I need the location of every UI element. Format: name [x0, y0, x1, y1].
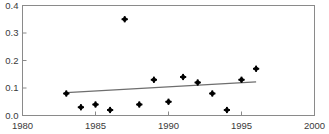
scatter-plot: 0.00.10.20.30.4 19801985199019952000 — [0, 0, 329, 134]
y-axis-tick-labels: 0.00.10.20.30.4 — [5, 0, 18, 121]
y-tick-label: 0.4 — [5, 0, 18, 11]
data-point — [253, 66, 259, 72]
data-point — [63, 90, 69, 96]
data-points — [63, 16, 259, 113]
data-point — [136, 101, 142, 107]
data-point — [92, 101, 98, 107]
x-tick-label: 1980 — [12, 120, 33, 131]
data-point-crossbar-v — [153, 77, 155, 83]
data-point-crossbar-v — [211, 90, 213, 96]
data-point — [107, 107, 113, 113]
data-point-crossbar-v — [95, 101, 97, 107]
trend-line-segment — [66, 82, 256, 93]
y-tick-label: 0.1 — [5, 82, 18, 93]
data-point-crossbar-v — [109, 107, 111, 113]
data-point — [180, 74, 186, 80]
data-point-crossbar-v — [255, 66, 257, 72]
data-point-crossbar-v — [124, 16, 126, 22]
data-point — [238, 77, 244, 83]
trend-line — [66, 82, 256, 93]
data-point-crossbar-v — [80, 104, 82, 110]
y-tick-label: 0.3 — [5, 27, 18, 38]
x-tick-label: 2000 — [304, 120, 325, 131]
data-point — [165, 99, 171, 105]
x-tick-label: 1990 — [158, 120, 179, 131]
data-point-crossbar-v — [168, 99, 170, 105]
data-point — [78, 104, 84, 110]
data-point-crossbar-v — [226, 107, 228, 113]
data-point — [209, 90, 215, 96]
y-axis-ticks — [23, 6, 27, 116]
x-axis-ticks — [23, 112, 315, 116]
x-tick-label: 1985 — [85, 120, 106, 131]
y-tick-label: 0.2 — [5, 55, 18, 66]
data-point-crossbar-v — [138, 101, 140, 107]
data-point-crossbar-v — [182, 74, 184, 80]
data-point — [122, 16, 128, 22]
data-point — [151, 77, 157, 83]
data-point — [224, 107, 230, 113]
data-point-crossbar-v — [197, 79, 199, 85]
chart-figure: 0.00.10.20.30.4 19801985199019952000 — [0, 0, 329, 134]
x-axis-tick-labels: 19801985199019952000 — [12, 120, 325, 131]
data-point-crossbar-v — [241, 77, 243, 83]
data-point-crossbar-v — [65, 90, 67, 96]
x-tick-label: 1995 — [231, 120, 252, 131]
